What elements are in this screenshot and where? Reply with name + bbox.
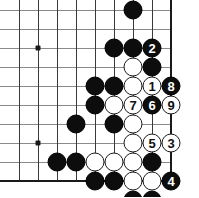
star-point [36,141,41,146]
stone-black[interactable] [105,39,124,58]
stone-move-number: 3 [167,136,174,149]
stone-white[interactable] [105,153,124,172]
stone-white[interactable] [124,153,143,172]
stone-move-number: 7 [129,98,136,111]
stone-black[interactable] [67,115,86,134]
stone-black[interactable] [67,153,86,172]
stone-move-number: 5 [148,136,155,149]
stone-white-move-9[interactable]: 9 [162,96,181,115]
stone-black[interactable] [86,172,105,191]
stone-move-number: 1 [148,79,155,92]
go-diagram-figure: 218769534 [0,0,199,197]
stone-black[interactable] [143,153,162,172]
stone-black[interactable] [86,77,105,96]
stone-white[interactable] [124,115,143,134]
stone-move-number: 8 [167,79,174,92]
stone-black[interactable] [48,153,67,172]
stone-black[interactable] [105,172,124,191]
stone-black[interactable] [143,191,162,198]
stone-white-move-3[interactable]: 3 [162,134,181,153]
grid-line-vertical [38,0,39,182]
go-board[interactable]: 218769534 [0,0,199,197]
stone-black-move-8[interactable]: 8 [162,77,181,96]
stone-white[interactable] [124,77,143,96]
stone-black[interactable] [124,1,143,20]
stone-black[interactable] [143,58,162,77]
grid-line-horizontal [0,29,172,30]
stone-black-move-6[interactable]: 6 [143,96,162,115]
stone-white-move-7[interactable]: 7 [124,96,143,115]
stone-white[interactable] [124,134,143,153]
grid-line-vertical [19,0,20,182]
stone-black[interactable] [86,96,105,115]
stone-black-move-2[interactable]: 2 [143,39,162,58]
stone-black-move-4[interactable]: 4 [162,172,181,191]
stone-move-number: 9 [167,98,174,111]
stone-move-number: 2 [148,41,155,54]
stone-black[interactable] [105,115,124,134]
star-point [36,46,41,51]
stone-black[interactable] [124,191,143,198]
stone-white[interactable] [105,96,124,115]
stone-black[interactable] [124,39,143,58]
stone-white-move-1[interactable]: 1 [143,77,162,96]
stone-black[interactable] [105,77,124,96]
stone-white[interactable] [124,172,143,191]
grid-line-horizontal [0,124,172,125]
grid-line-horizontal [0,10,172,11]
stone-white[interactable] [124,58,143,77]
stone-white-move-5[interactable]: 5 [143,134,162,153]
stone-move-number: 4 [167,174,174,187]
stone-move-number: 6 [148,98,155,111]
stone-white[interactable] [86,153,105,172]
stone-white[interactable] [143,172,162,191]
